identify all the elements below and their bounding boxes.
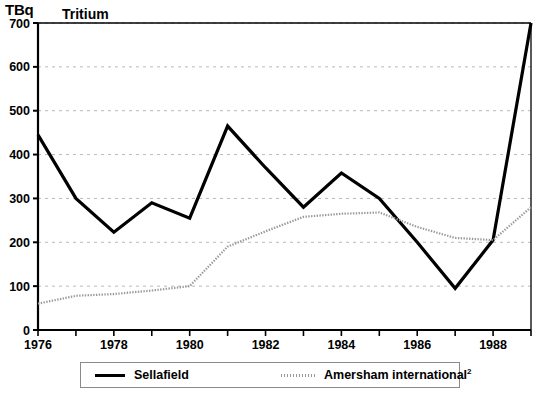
x-tick-label: 1988 <box>479 338 507 352</box>
x-tick-label: 1986 <box>403 338 431 352</box>
y-tick-label: 100 <box>9 280 30 294</box>
legend-line-sample-dotted-icon <box>281 374 315 377</box>
gridlines <box>38 23 531 286</box>
y-tick-label: 400 <box>9 148 30 162</box>
tritium-chart: TBq Tritium 0100200300400500600700 19761… <box>0 0 541 394</box>
y-tick-label: 200 <box>9 236 30 250</box>
legend: Sellafield Amersham international2 <box>80 362 460 388</box>
y-tick-label: 600 <box>9 60 30 74</box>
data-series-group <box>38 23 531 304</box>
x-tick-label: 1976 <box>24 338 52 352</box>
legend-label-sellafield: Sellafield <box>134 368 189 382</box>
series-line-amersham <box>38 207 531 303</box>
y-axis-tick-labels: 0100200300400500600700 <box>9 17 30 338</box>
x-tick-label: 1978 <box>100 338 128 352</box>
legend-item-sellafield: Sellafield <box>95 363 189 387</box>
x-tick-label: 1982 <box>252 338 280 352</box>
legend-label-amersham: Amersham international2 <box>324 367 472 382</box>
x-tick-label: 1980 <box>176 338 204 352</box>
legend-item-amersham: Amersham international2 <box>281 363 472 387</box>
y-tick-label: 500 <box>9 104 30 118</box>
y-tick-label: 700 <box>9 17 30 31</box>
y-tick-label: 0 <box>23 324 30 338</box>
legend-line-sample-solid-icon <box>95 374 125 377</box>
y-tick-label: 300 <box>9 192 30 206</box>
x-axis-tick-labels: 1976197819801982198419861988 <box>24 338 507 352</box>
series-line-sellafield <box>38 23 531 288</box>
x-tick-label: 1984 <box>327 338 355 352</box>
plot-area: 0100200300400500600700 19761978198019821… <box>0 0 541 394</box>
